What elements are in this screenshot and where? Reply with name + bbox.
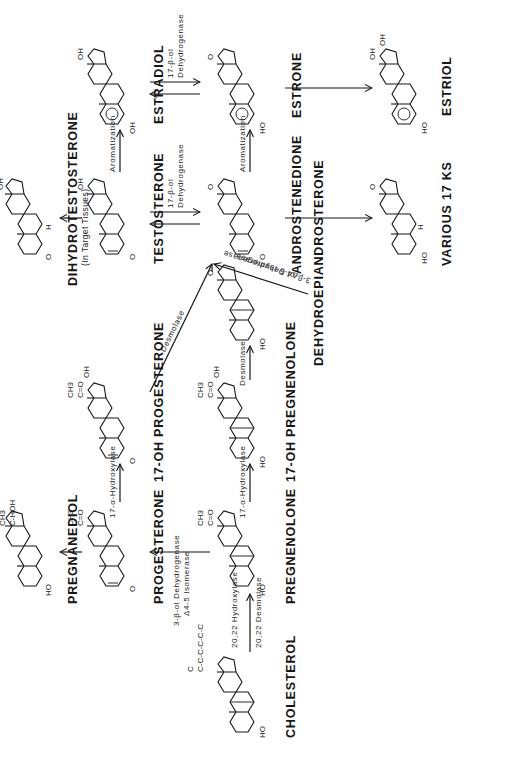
label-testosterone: TESTOSTERONE <box>152 153 166 264</box>
testo-oh: OH <box>76 178 85 190</box>
enzyme-17b-ol-estrone-estradiol-2: Dehydrogenase <box>176 14 186 78</box>
label-dhea: DEHYDROEPIANDROSTERONE <box>312 159 326 366</box>
17ks-ho: HO <box>420 252 429 264</box>
progesterone-ch3: CH3 <box>66 510 75 526</box>
enzyme-17a-hydroxylase-preg: 17-α-Hydroxylase <box>238 446 248 518</box>
estradiol-structure <box>87 49 124 124</box>
dht-structure <box>5 179 42 254</box>
estriol-oh17: OH <box>368 48 377 60</box>
pregnanediol-ch3: CH3 <box>0 510 7 526</box>
dhea-o: O <box>206 270 215 276</box>
cholesterol-sidechain-branch: C <box>186 666 195 672</box>
label-androstenedione: ANDROSTENEDIONE <box>290 135 304 274</box>
label-cholesterol: CHOLESTEROL <box>284 635 298 738</box>
label-various-17ks: VARIOUS 17 KS <box>440 161 454 266</box>
testo-o: O <box>128 254 137 260</box>
label-dht: DIHYDROTESTOSTERONE <box>66 111 80 286</box>
enzyme-desmolase-dhea: Desmolase <box>238 341 248 386</box>
dhea-structure <box>217 265 254 340</box>
andro-o17: O <box>206 184 215 190</box>
enzyme-aromatization-testo: Aromatization <box>108 115 118 172</box>
enzyme-17b-ol-andro-testo-2: Dehydrogenase <box>176 144 186 208</box>
estrone-structure <box>217 49 254 124</box>
cholesterol-structure <box>217 657 254 732</box>
estriol-ho: HO <box>420 122 429 134</box>
progesterone-co: C=O <box>76 509 85 526</box>
estrone-ho: HO <box>258 122 267 134</box>
pregnanediol-ho: HO <box>44 584 53 596</box>
dht-oh: OH <box>0 178 5 190</box>
label-pregnenolone: PREGNENOLONE <box>284 488 298 604</box>
label-17oh-pregnenolone: 17-OH PREGNENOLONE <box>284 321 298 482</box>
17oh-preg-ho: HO <box>258 456 267 468</box>
cholesterol-sidechain: C-C-C-C-C-C <box>196 624 205 672</box>
pregnanediol-choh: C-HOH <box>8 500 17 526</box>
enzyme-20-22-desmolase: 20,22 Desmolase <box>254 577 264 648</box>
estradiol-oh3: OH <box>128 122 137 134</box>
enzyme-d4-5-isomerase: Δ4-5 Isomerase <box>182 551 192 616</box>
estriol-structure <box>379 49 416 124</box>
enzyme-aromatization-andro: Aromatization <box>238 115 248 172</box>
17oh-preg-ch3: CH3 <box>196 382 205 398</box>
dht-h: H <box>44 224 53 230</box>
17oh-preg-oh: OH <box>212 366 221 378</box>
cholesterol-ho: HO <box>258 726 267 738</box>
enzyme-17b-ol-andro-testo-1: 17-β-ol <box>166 179 176 208</box>
androstenedione-structure <box>217 179 254 254</box>
estriol-oh16: OH <box>378 34 387 46</box>
various-17ks-structure <box>379 179 416 254</box>
17ks-o: O <box>368 184 377 190</box>
17oh-prog-ch3: CH3 <box>66 382 75 398</box>
17oh-pregnenolone-structure <box>217 383 254 458</box>
pregnenolone-co: C=O <box>206 509 215 526</box>
dht-o: O <box>44 254 53 260</box>
17oh-prog-co: C=O <box>76 381 85 398</box>
label-dht-sub: (In Target Tissues) <box>80 189 90 266</box>
testosterone-structure <box>87 179 124 254</box>
enzyme-17a-hydroxylase-prog: 17-α-Hydroxylase <box>108 446 118 518</box>
label-estrone: ESTRONE <box>290 52 304 118</box>
estrone-o: O <box>206 54 215 60</box>
17oh-prog-oh: OH <box>82 366 91 378</box>
label-progesterone: PROGESTERONE <box>152 489 166 604</box>
17oh-preg-co: C=O <box>206 381 215 398</box>
label-estriol: ESTRIOL <box>440 56 454 116</box>
estradiol-oh17: OH <box>76 48 85 60</box>
enzyme-3b-ol-dehydrogenase: 3-β-ol Dehydrogenase <box>172 535 182 626</box>
label-estradiol: ESTRADIOL <box>152 45 166 124</box>
enzyme-20-22-hydroxylase: 20,22 Hydroxylase <box>230 572 240 648</box>
17oh-progesterone-structure <box>87 383 124 458</box>
dhea-ho: HO <box>258 338 267 350</box>
enzyme-17b-ol-estrone-estradiol-1: 17-β-ol <box>166 49 176 78</box>
17oh-prog-o: O <box>128 458 137 464</box>
17ks-h: H <box>416 224 425 230</box>
pathway-diagram: CHOLESTEROL PREGNENOLONE PROGESTERONE PR… <box>0 0 516 764</box>
pregnenolone-ch3: CH3 <box>196 510 205 526</box>
progesterone-structure <box>87 511 124 586</box>
progesterone-o: O <box>128 586 137 592</box>
